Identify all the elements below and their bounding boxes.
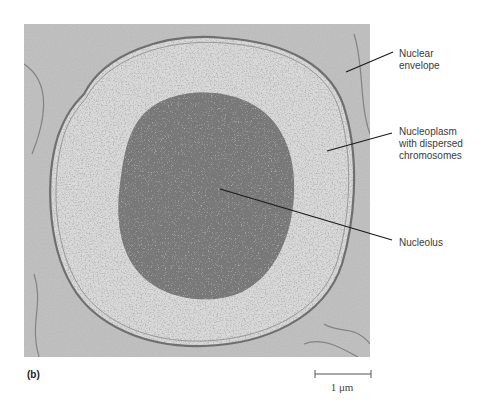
label-nucleoplasm: Nucleoplasm with dispersed chromosomes bbox=[399, 126, 463, 162]
label-line: envelope bbox=[399, 60, 440, 72]
scale-bar-label: 1 μm bbox=[322, 381, 362, 393]
label-line: with dispersed bbox=[399, 138, 463, 150]
label-line: chromosomes bbox=[399, 150, 463, 162]
panel-label: (b) bbox=[27, 369, 40, 380]
label-nuclear-envelope: Nuclear envelope bbox=[399, 48, 440, 72]
label-line: Nuclear bbox=[399, 48, 440, 60]
scale-bar bbox=[315, 370, 371, 378]
figure: Nuclear envelope Nucleoplasm with disper… bbox=[0, 0, 485, 407]
electron-micrograph bbox=[24, 24, 370, 357]
label-line: Nucleoplasm bbox=[399, 126, 463, 138]
label-nucleolus: Nucleolus bbox=[399, 237, 443, 249]
label-line: Nucleolus bbox=[399, 237, 443, 249]
